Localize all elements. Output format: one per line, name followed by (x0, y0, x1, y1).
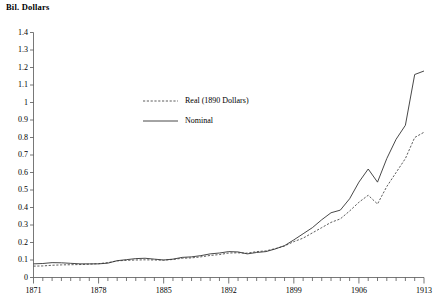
y-axis-ticks (30, 33, 34, 278)
y-axis-tick-label: 0.2 (2, 239, 28, 247)
y-axis-tick-label: 1.1 (2, 81, 28, 89)
plot-area (0, 0, 435, 308)
y-axis-tick-label: 0.3 (2, 221, 28, 229)
y-axis-tick-label: 0 (2, 274, 28, 282)
y-axis-tick-label: 0.7 (2, 151, 28, 159)
y-axis-tick-label: 0.9 (2, 116, 28, 124)
y-axis-tick-label: 0.8 (2, 134, 28, 142)
y-axis-tick-label: 0.5 (2, 186, 28, 194)
y-axis-tick-label: 0.4 (2, 204, 28, 212)
chart-container: Bil. Dollars 1.41.31.21.110.90.80.70.60.… (0, 0, 435, 308)
y-axis-tick-label: 0.6 (2, 169, 28, 177)
x-axis-tick-label: 1913 (404, 287, 435, 295)
legend-label: Nominal (185, 117, 213, 125)
series-line (34, 132, 425, 266)
y-axis-tick-label: 1.3 (2, 46, 28, 54)
legend-line-samples (143, 101, 178, 121)
y-axis-tick-label: 1 (2, 99, 28, 107)
x-axis-tick-label: 1906 (339, 287, 379, 295)
x-axis-tick-label: 1885 (144, 287, 184, 295)
x-axis-tick-label: 1878 (79, 287, 119, 295)
x-axis-tick-label: 1871 (14, 287, 54, 295)
y-axis-tick-label: 1.2 (2, 64, 28, 72)
y-axis-tick-label: 1.4 (2, 29, 28, 37)
y-axis-tick-label: 0.1 (2, 256, 28, 264)
x-axis-ticks (34, 278, 425, 284)
x-axis-tick-label: 1892 (209, 287, 249, 295)
x-axis-tick-label: 1899 (274, 287, 314, 295)
axis-lines (34, 33, 425, 278)
legend-label: Real (1890 Dollars) (185, 97, 249, 105)
